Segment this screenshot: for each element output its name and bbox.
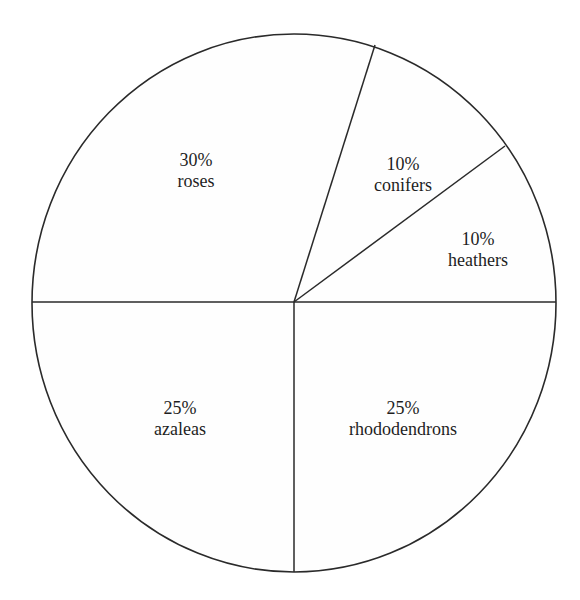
slice-name: rhododendrons: [349, 419, 457, 440]
slice-label-azaleas: 25% azaleas: [154, 398, 206, 440]
slice-name: heathers: [448, 250, 508, 271]
slice-label-conifers: 10% conifers: [374, 154, 432, 196]
slice-percent: 25%: [349, 398, 457, 419]
slice-label-roses: 30% roses: [178, 150, 215, 192]
slice-percent: 30%: [178, 150, 215, 171]
slice-name: conifers: [374, 175, 432, 196]
slice-name: azaleas: [154, 419, 206, 440]
slice-percent: 10%: [374, 154, 432, 175]
pie-chart: [0, 0, 580, 600]
slice-label-heathers: 10% heathers: [448, 229, 508, 271]
slice-percent: 10%: [448, 229, 508, 250]
slice-percent: 25%: [154, 398, 206, 419]
slice-label-rhododendrons: 25% rhododendrons: [349, 398, 457, 440]
slice-name: roses: [178, 171, 215, 192]
